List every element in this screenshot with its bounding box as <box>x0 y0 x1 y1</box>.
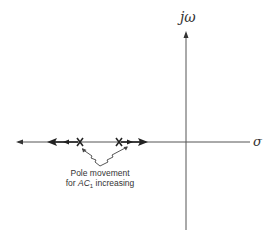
imaginary-axis-label: jω <box>177 9 196 25</box>
annotation-line1: Pole movement <box>70 168 130 178</box>
axis-arrow-left-icon <box>16 140 23 145</box>
left-pole-movement <box>47 138 78 146</box>
small-arrowhead-right-icon <box>127 140 133 145</box>
annotation-line2: for AC1 increasing <box>66 178 135 189</box>
s-plane-diagram: jω σ Pole movement for AC1 increasing <box>0 0 278 236</box>
axis-arrow-up-icon <box>184 31 189 38</box>
right-pole-movement <box>121 138 148 146</box>
imaginary-axis <box>184 31 189 230</box>
annotation-leader-lines <box>82 147 128 167</box>
real-axis-label: σ <box>253 134 263 149</box>
small-arrowhead-left-icon <box>63 140 69 145</box>
